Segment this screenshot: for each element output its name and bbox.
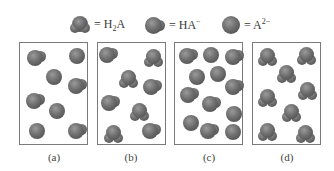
panel-a-caption: (a) <box>34 151 74 163</box>
panel-b-caption: (b) <box>111 151 151 163</box>
legend-label-ha-minus: = HA− <box>169 17 201 33</box>
legend-item-a-2minus: = A2− <box>222 17 270 33</box>
panel-c-caption: (c) <box>189 151 229 163</box>
panel-d-caption: (d) <box>267 151 307 163</box>
legend-label-h2a: = H2A <box>94 17 125 33</box>
a-2minus-molecule-icon <box>222 16 240 34</box>
panel-c <box>174 42 243 145</box>
legend-item-h2a: = H2A <box>70 17 125 33</box>
h2a-molecule-icon <box>70 16 90 34</box>
panel-a <box>19 42 88 145</box>
ha-minus-molecule-icon <box>145 17 165 34</box>
legend-item-ha-minus: = HA− <box>145 17 201 33</box>
legend-label-a-2minus: = A2− <box>244 17 270 33</box>
panel-d <box>252 42 321 145</box>
panel-b <box>97 42 166 145</box>
